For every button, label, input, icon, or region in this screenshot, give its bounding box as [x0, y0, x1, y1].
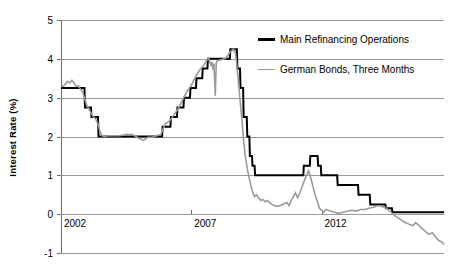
gridline--1 — [61, 253, 444, 254]
y-axis-label--1: -1 — [25, 248, 53, 259]
interest-rate-line-chart: Interest Rate (%) 543210-1 200220072012 … — [0, 0, 456, 274]
legend-label: German Bonds, Three Months — [280, 64, 414, 75]
y-axis-label-0: 0 — [25, 209, 53, 220]
y-axis-label-5: 5 — [25, 15, 53, 26]
y-axis-label-4: 4 — [25, 53, 53, 64]
x-axis-label-2012: 2012 — [324, 218, 346, 229]
y-axis-label-2: 2 — [25, 131, 53, 142]
y-axis-label-3: 3 — [25, 92, 53, 103]
y-axis-title-label: Interest Rate (%) — [7, 98, 18, 176]
y-axis-label-1: 1 — [25, 170, 53, 181]
legend-swatch-icon — [258, 38, 275, 41]
plot-area — [61, 20, 444, 253]
y-axis-title: Interest Rate (%) — [2, 0, 22, 274]
y-tick--1 — [57, 253, 61, 254]
legend-swatch-icon — [258, 69, 275, 71]
series-lines — [61, 20, 444, 253]
x-axis-label-2007: 2007 — [194, 218, 216, 229]
series-line-german-bonds-three-months — [61, 49, 444, 244]
legend-label: Main Refinancing Operations — [280, 34, 409, 45]
legend-item-1[interactable]: Main Refinancing Operations — [258, 34, 409, 45]
x-axis-label-2002: 2002 — [64, 218, 86, 229]
legend-item-2[interactable]: German Bonds, Three Months — [258, 64, 414, 75]
